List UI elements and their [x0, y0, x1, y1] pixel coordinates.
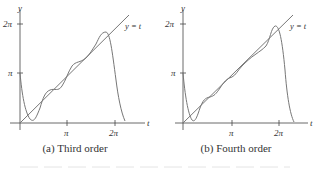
line-y-equals-t — [20, 15, 129, 123]
line-label: y = t — [124, 21, 142, 31]
panel-a: y t 2π π π 2π y = t — [3, 3, 150, 138]
y-tick-label-pi: π — [8, 68, 13, 78]
line-label: y = t — [289, 21, 307, 31]
t-axis-label: t — [310, 118, 313, 128]
y-axis-label: y — [180, 3, 185, 13]
y-tick-label-pi: π — [171, 68, 176, 78]
caption-b: (b) Fourth order — [161, 142, 311, 154]
caption-a: (a) Third order — [0, 142, 150, 154]
x-tick-label-pi: π — [229, 128, 234, 138]
x-tick-label-2pi: 2π — [109, 128, 119, 138]
fourier-curve-fourth-order — [183, 26, 294, 122]
x-tick-label-2pi: 2π — [274, 128, 284, 138]
panel-b: y t 2π π π 2π y = t — [165, 3, 313, 138]
line-y-equals-t — [183, 15, 293, 123]
x-tick-label-pi: π — [64, 128, 69, 138]
y-tick-label-2pi: 2π — [3, 19, 13, 29]
t-axis-label: t — [147, 118, 150, 128]
y-axis-label: y — [17, 3, 22, 13]
y-tick-label-2pi: 2π — [165, 19, 175, 29]
